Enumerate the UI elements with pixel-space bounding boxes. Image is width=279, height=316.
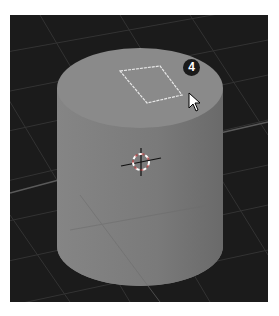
mouse-pointer-icon <box>188 92 202 112</box>
step-badge: 4 <box>183 59 200 76</box>
cylinder-top-face[interactable] <box>57 48 223 128</box>
3d-viewport[interactable]: 4 <box>10 15 268 302</box>
viewport-scene <box>10 15 268 302</box>
